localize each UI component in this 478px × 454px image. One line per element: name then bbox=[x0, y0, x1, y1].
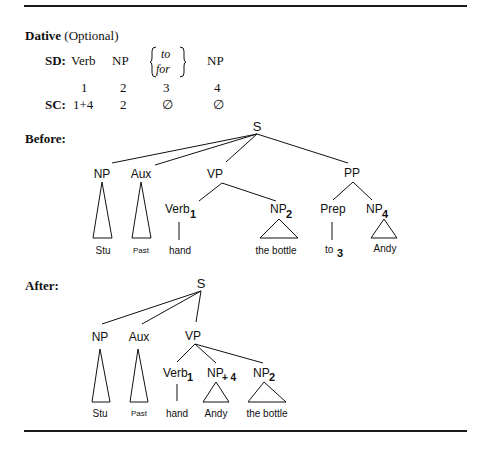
after-leaf-andy: Andy bbox=[205, 408, 228, 419]
before-pp: PP bbox=[344, 166, 360, 180]
before-vp: VP bbox=[207, 167, 223, 181]
before-np4-sub: 4 bbox=[382, 208, 389, 220]
before-leaf-to-sub: 3 bbox=[337, 247, 343, 259]
after-np: NP bbox=[92, 330, 109, 344]
before-np: NP bbox=[94, 167, 111, 181]
after-leaf-hand: hand bbox=[166, 408, 188, 419]
after-np2-sub: 2 bbox=[269, 371, 275, 383]
after-aux: Aux bbox=[129, 330, 150, 344]
before-verb: Verb bbox=[165, 202, 190, 216]
after-leaf-bottle: the bottle bbox=[246, 408, 288, 419]
before-np4: NP bbox=[366, 202, 383, 216]
after-root-s: S bbox=[197, 276, 206, 291]
before-leaf-hand: hand bbox=[169, 245, 191, 256]
before-np2-sub: 2 bbox=[286, 208, 292, 220]
before-leaf-stu: Stu bbox=[95, 245, 110, 256]
before-leaf-bottle: the bottle bbox=[255, 245, 297, 256]
after-leaf-past: Past bbox=[131, 409, 148, 418]
bottom-rule bbox=[24, 430, 467, 432]
after-np2: NP bbox=[253, 366, 270, 380]
before-np2: NP bbox=[270, 202, 287, 216]
tree-diagrams: S NP Aux VP PP Verb 1 NP 2 Prep NP 4 Stu… bbox=[0, 0, 478, 454]
after-vp: VP bbox=[185, 329, 201, 343]
before-root-s: S bbox=[253, 119, 262, 134]
after-verb: Verb bbox=[163, 366, 188, 380]
before-leaf-andy: Andy bbox=[374, 243, 397, 254]
before-leaf-to: to bbox=[325, 244, 334, 255]
after-leaf-stu: Stu bbox=[92, 408, 107, 419]
after-verb-sub: 1 bbox=[187, 371, 193, 383]
after-np4-sub: + 4 bbox=[222, 372, 237, 383]
before-verb-sub: 1 bbox=[190, 208, 196, 220]
before-aux: Aux bbox=[131, 167, 152, 181]
before-leaf-past: Past bbox=[133, 246, 150, 255]
before-prep: Prep bbox=[320, 202, 346, 216]
